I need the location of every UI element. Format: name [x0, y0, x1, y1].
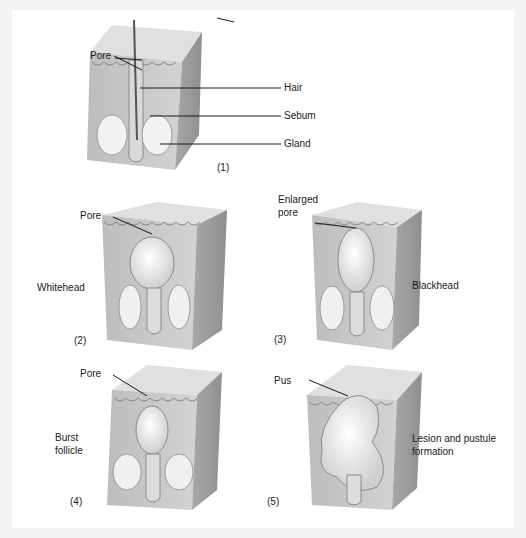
- diagram-sheet: Pore Hair Sebum Gland (1) Pore Whitehead…: [12, 10, 514, 528]
- panel-number-1: (1): [217, 162, 229, 173]
- label-pore-1: Pore: [90, 50, 111, 62]
- panel-number-3: (3): [274, 334, 286, 345]
- label-enlarged: Enlarged: [278, 194, 318, 206]
- label-hair: Hair: [284, 82, 302, 94]
- caption-lesion: Lesion and pustule: [412, 433, 496, 445]
- caption-formation: formation: [412, 446, 454, 458]
- caption-whitehead: Whitehead: [37, 282, 85, 294]
- caption-burst: Burst: [55, 432, 78, 444]
- panel-2-block: [102, 202, 227, 350]
- caption-follicle: follicle: [55, 445, 83, 457]
- caption-blackhead: Blackhead: [412, 280, 459, 292]
- label-sebum: Sebum: [284, 110, 316, 122]
- panel-4-block: [107, 365, 222, 510]
- panel-number-2: (2): [74, 335, 86, 346]
- label-gland: Gland: [284, 138, 311, 150]
- label-pore-4: Pore: [80, 368, 101, 380]
- panel-number-4: (4): [70, 496, 82, 507]
- label-pore-2: Pore: [80, 210, 101, 222]
- label-pus: Pus: [274, 375, 291, 387]
- panel-number-5: (5): [267, 496, 279, 507]
- panel-1-block: [87, 20, 202, 170]
- label-pore-3: pore: [278, 207, 298, 219]
